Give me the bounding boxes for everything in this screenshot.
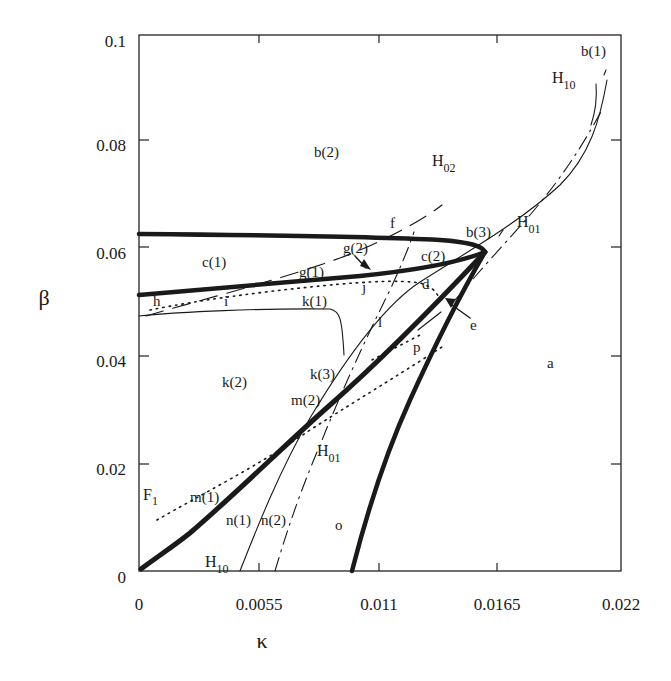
bifurcation-diagram: 0 0.0055 0.011 0.0165 0.022 0 0.02 0.04 … <box>0 0 671 681</box>
y-tick-3: 0.06 <box>96 244 126 263</box>
label-f: f <box>390 215 395 231</box>
y-tick-1: 0.02 <box>96 460 126 479</box>
label-a: a <box>547 355 554 371</box>
label-b1: b(1) <box>581 43 606 60</box>
label-d: d <box>422 276 430 292</box>
label-h10-top: H10 <box>552 69 576 92</box>
label-m1: m(1) <box>190 489 219 506</box>
label-h02: H02 <box>432 152 456 175</box>
label-k3: k(3) <box>310 366 335 383</box>
label-o: o <box>335 517 343 533</box>
y-tick-5: 0.1 <box>105 32 126 51</box>
label-h10-bottom: H10 <box>205 553 229 576</box>
label-k2: k(2) <box>222 374 247 391</box>
label-i: i <box>224 293 228 309</box>
b1-tick <box>604 70 606 75</box>
label-j: j <box>361 279 366 295</box>
label-g2: g(2) <box>343 240 368 257</box>
y-tick-labels: 0 0.02 0.04 0.06 0.08 0.1 <box>96 32 126 587</box>
x-tick-4: 0.022 <box>602 595 640 614</box>
k-boundary-curve <box>139 309 344 355</box>
x-tick-3: 0.0165 <box>474 595 521 614</box>
label-n1: n(1) <box>226 512 251 529</box>
label-k1: k(1) <box>302 293 327 310</box>
label-g1: g(1) <box>299 264 324 281</box>
h01-curve-upper <box>455 110 602 300</box>
y-tick-0: 0 <box>118 568 127 587</box>
label-h01-lower: H01 <box>317 442 341 465</box>
label-p: p <box>413 339 421 355</box>
x-tick-2: 0.011 <box>360 595 398 614</box>
label-l: l <box>378 314 382 330</box>
label-c2: c(2) <box>421 248 445 265</box>
label-f1: F1 <box>143 486 158 508</box>
x-axis-title: κ <box>256 628 267 653</box>
label-b2: b(2) <box>314 144 339 161</box>
label-m2: m(2) <box>291 392 320 409</box>
h10-top-branch <box>591 84 596 125</box>
label-b3: b(3) <box>466 224 491 241</box>
y-axis-title: β <box>38 285 49 310</box>
x-tick-0: 0 <box>135 595 144 614</box>
label-c1: c(1) <box>202 254 226 271</box>
label-h: h <box>153 293 161 309</box>
y-tick-2: 0.04 <box>96 352 126 371</box>
label-h01-upper: H01 <box>517 213 541 236</box>
x-ticks <box>259 35 497 571</box>
hijd-curve <box>150 281 438 310</box>
x-tick-1: 0.0055 <box>236 595 283 614</box>
x-tick-labels: 0 0.0055 0.011 0.0165 0.022 <box>135 595 640 614</box>
label-n2: n(2) <box>261 512 286 529</box>
y-tick-4: 0.08 <box>96 136 126 155</box>
label-e: e <box>470 317 477 333</box>
y-ticks <box>139 140 621 464</box>
thick-right-branch <box>352 252 485 571</box>
